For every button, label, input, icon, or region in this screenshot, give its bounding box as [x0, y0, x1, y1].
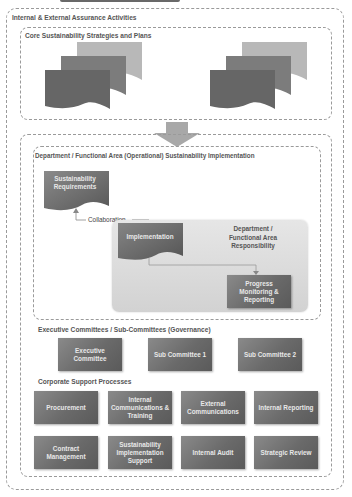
requirements-label: Sustainability Requirements	[45, 175, 105, 192]
responsibility-label: Department / Functional Area Responsibil…	[218, 225, 288, 251]
support-title: Corporate Support Processes	[38, 378, 131, 385]
implementation-support-box: Sustainability Implementation Support	[108, 436, 172, 469]
internal-reporting-box: Internal Reporting	[254, 391, 318, 424]
progress-monitoring-box: Progress Monitoring & Reporting	[227, 275, 291, 308]
external-communications-box: External Communications	[181, 391, 245, 424]
assurance-title: Internal & External Assurance Activities	[12, 14, 136, 21]
sub-committee-2-box: Sub Committee 2	[238, 338, 302, 371]
executive-title: Executive Committees / Sub-Committees (G…	[38, 326, 211, 333]
contract-management-box: Contract Management	[34, 436, 98, 469]
internal-audit-box: Internal Audit	[181, 436, 245, 469]
internal-communications-box: Internal Communications & Training	[108, 391, 172, 424]
procurement-box: Procurement	[34, 391, 98, 424]
department-title: Department / Functional Area (Operationa…	[35, 152, 255, 159]
cropped-heading	[0, 0, 352, 5]
strategic-review-box: Strategic Review	[254, 436, 318, 469]
implementation-label: Implementation	[117, 233, 183, 240]
document-stack-icon	[209, 41, 309, 113]
document-stack-icon	[44, 41, 144, 113]
core-strategies-title: Core Sustainability Strategies and Plans	[25, 32, 151, 39]
sub-committee-1-box: Sub Committee 1	[148, 338, 212, 371]
executive-committee-box: Executive Committee	[58, 338, 122, 371]
implementation-doc-shape	[117, 222, 185, 262]
